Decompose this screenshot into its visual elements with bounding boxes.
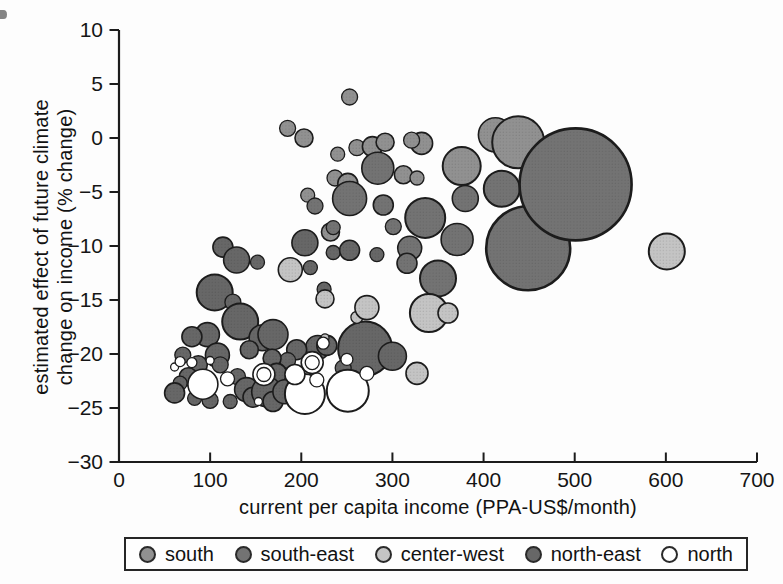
legend-item-south-east: south-east	[235, 543, 354, 566]
x-axis-title: current per capita income (PPA-US$/month…	[119, 496, 757, 519]
bubble-north-east	[340, 240, 360, 260]
bubble-north-east	[378, 342, 406, 370]
bubble-north	[360, 366, 374, 380]
bubble-center-west	[649, 233, 685, 269]
bubble-north-east	[224, 247, 250, 273]
x-tick-label-500: 500	[557, 468, 592, 491]
bubble-south-east	[385, 219, 401, 235]
bubble-south-east	[452, 186, 478, 212]
bubble-north	[305, 356, 319, 370]
legend-item-north: north	[661, 543, 733, 566]
bubble-north-east	[182, 327, 202, 347]
legend-swatch-center-west-icon	[375, 546, 392, 563]
bubble-center-west	[278, 258, 302, 282]
bubble-south	[410, 171, 424, 185]
bubble-north	[341, 353, 353, 365]
bubble-center-west	[355, 296, 379, 320]
legend-label-north: north	[687, 543, 733, 566]
bubble-north-east	[212, 357, 228, 373]
bubble-north	[317, 337, 329, 349]
legend-swatch-south-east-icon	[235, 546, 252, 563]
scan-artifact-speck	[0, 10, 7, 19]
bubble-north	[187, 358, 197, 368]
legend-item-center-west: center-west	[375, 543, 504, 566]
bubble-north-east	[258, 320, 288, 350]
x-tick-label-300: 300	[375, 468, 410, 491]
bubble-south-east	[333, 182, 367, 216]
bubble-north	[221, 372, 235, 386]
y-axis-title-line2: change on income (% change)	[53, 87, 77, 407]
legend-label-south: south	[165, 543, 214, 566]
y-tick-label-0: 0	[91, 126, 103, 149]
bubble-north	[254, 398, 262, 406]
x-tick-label-100: 100	[193, 468, 228, 491]
bubble-north-east	[240, 341, 258, 359]
bubble-north-east	[303, 261, 317, 275]
legend-label-center-west: center-west	[401, 543, 504, 566]
bubble-south	[331, 147, 345, 161]
legend-swatch-south-icon	[139, 546, 156, 563]
y-axis-title: estimated effect of future climate chang…	[29, 87, 77, 407]
bubble-south	[404, 132, 420, 148]
figure-canvas: 1050−5−10−15−20−25−300100200300400500600…	[0, 0, 783, 584]
bubble-south-east	[484, 171, 520, 207]
bubble-center-west	[438, 303, 458, 323]
legend-item-north-east: north-east	[525, 543, 641, 566]
bubble-north	[188, 369, 218, 399]
bubble-south-east	[397, 253, 417, 273]
bubble-north	[257, 368, 271, 382]
legend-box: southsouth-eastcenter-westnorth-eastnort…	[124, 537, 748, 571]
bubble-south-east	[373, 195, 393, 215]
bubble-north-east	[165, 383, 185, 403]
bubble-south	[280, 120, 296, 136]
bubble-south-east	[307, 198, 323, 214]
x-tick-label-700: 700	[739, 468, 774, 491]
bubble-north-east	[251, 255, 265, 269]
bubble-north	[175, 357, 185, 367]
bubble-south	[443, 147, 481, 185]
x-tick-label-600: 600	[648, 468, 683, 491]
bubble-south	[295, 129, 313, 147]
bubble-north-east	[292, 230, 318, 256]
bubble-south-east	[326, 221, 340, 235]
y-tick-label-10: 10	[80, 18, 103, 41]
y-tick-label--30: −30	[67, 450, 103, 473]
y-tick-label--5: −5	[79, 180, 103, 203]
bubble-north-east	[370, 248, 384, 262]
bubble-south-east	[520, 128, 632, 240]
y-tick-label-5: 5	[91, 72, 103, 95]
legend-label-north-east: north-east	[551, 543, 641, 566]
bubble-south	[376, 133, 394, 151]
bubble-south-east	[362, 152, 394, 184]
bubble-south-east	[441, 224, 473, 256]
legend-swatch-north-icon	[661, 546, 678, 563]
bubble-south	[394, 166, 412, 184]
y-axis-title-line1: estimated effect of future climate	[29, 87, 53, 407]
legend-label-south-east: south-east	[261, 543, 354, 566]
legend-item-south: south	[139, 543, 214, 566]
legend-swatch-north-east-icon	[525, 546, 542, 563]
bubble-south	[342, 89, 358, 105]
x-tick-label-0: 0	[113, 468, 125, 491]
x-tick-label-400: 400	[466, 468, 501, 491]
bubble-center-west	[316, 290, 334, 308]
bubble-center-west	[406, 362, 428, 384]
bubble-north-east	[326, 246, 340, 260]
bubble-north	[310, 373, 324, 387]
bubble-north-east	[223, 395, 237, 409]
bubble-south-east	[405, 198, 445, 238]
bubble-south-east	[420, 260, 456, 296]
bubble-north	[206, 357, 214, 365]
x-tick-label-200: 200	[284, 468, 319, 491]
